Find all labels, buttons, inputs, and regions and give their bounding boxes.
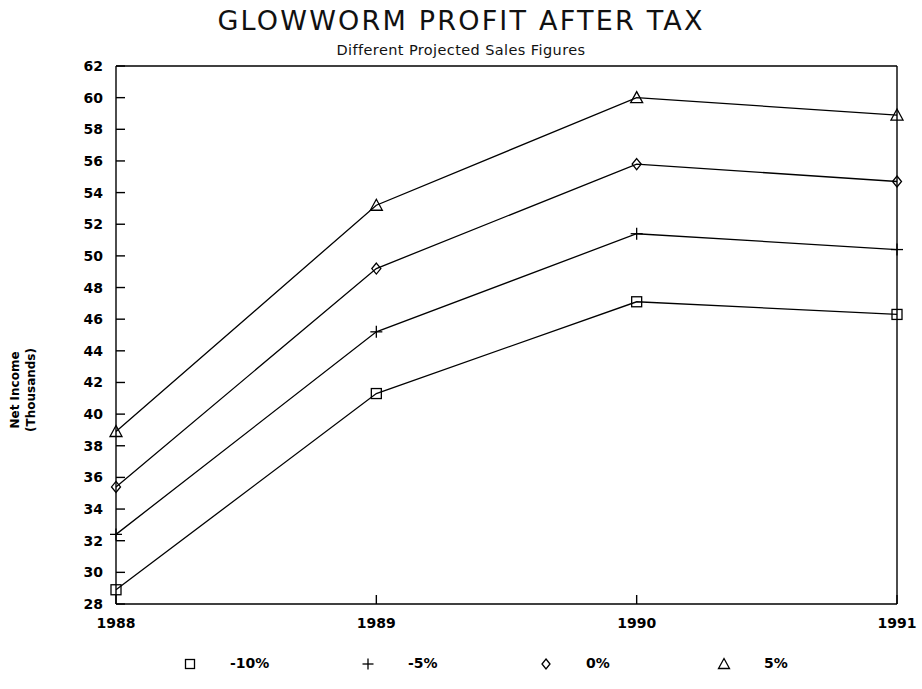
y-tick-label: 62	[84, 58, 103, 74]
y-tick-label: 48	[84, 280, 103, 296]
chart-title: GLOWWORM PROFIT AFTER TAX	[217, 5, 704, 36]
series-line	[116, 164, 897, 487]
y-tick-label: 34	[84, 501, 104, 517]
y-tick-label: 58	[84, 121, 103, 137]
marker-plus	[631, 228, 643, 240]
y-tick-label: 30	[84, 564, 104, 580]
y-axis-title: Net Income (Thousands)	[8, 348, 38, 432]
legend-item-minus5pct[interactable]: -5%	[363, 655, 438, 671]
chart-subtitle: Different Projected Sales Figures	[337, 42, 586, 58]
marker-plus	[370, 326, 382, 338]
x-tick-label: 1990	[617, 615, 656, 631]
series-line	[116, 302, 897, 590]
chart-canvas: GLOWWORM PROFIT AFTER TAX Different Proj…	[0, 0, 922, 689]
marker-square	[186, 660, 195, 669]
x-axis-ticks: 1988198919901991	[97, 595, 917, 631]
legend-label: -5%	[408, 655, 438, 671]
series-minus5pct	[110, 228, 903, 541]
series-5pct	[110, 92, 903, 437]
legend-label: 5%	[764, 655, 788, 671]
marker-plus	[110, 528, 122, 540]
series-0pct	[112, 159, 902, 493]
legend-label: 0%	[586, 655, 610, 671]
y-tick-label: 40	[84, 406, 104, 422]
y-tick-label: 56	[84, 153, 103, 169]
line-chart: GLOWWORM PROFIT AFTER TAX Different Proj…	[0, 0, 922, 689]
y-axis-title-line1: Net Income	[8, 351, 22, 428]
x-tick-label: 1991	[878, 615, 917, 631]
y-tick-label: 46	[84, 311, 103, 327]
y-tick-label: 44	[84, 343, 104, 359]
series-line	[116, 234, 897, 535]
chart-legend: -10%-5%0%5%	[186, 655, 788, 671]
legend-item-0pct[interactable]: 0%	[542, 655, 610, 671]
marker-triangle	[719, 659, 730, 669]
y-axis-ticks: 283032343638404244464850525456586062	[84, 58, 125, 612]
x-tick-label: 1989	[357, 615, 396, 631]
x-tick-label: 1988	[97, 615, 136, 631]
y-tick-label: 54	[84, 185, 104, 201]
legend-item-minus10pct[interactable]: -10%	[186, 655, 270, 671]
marker-plus	[891, 244, 903, 256]
y-tick-label: 60	[84, 90, 104, 106]
y-tick-label: 50	[84, 248, 104, 264]
y-tick-label: 52	[84, 216, 103, 232]
marker-plus	[363, 659, 374, 670]
y-tick-label: 42	[84, 374, 103, 390]
y-tick-label: 32	[84, 533, 103, 549]
y-axis-title-line2: (Thousands)	[24, 348, 38, 432]
plot-frame	[116, 66, 897, 604]
legend-item-5pct[interactable]: 5%	[719, 655, 788, 671]
series-line	[116, 98, 897, 432]
marker-diamond	[542, 659, 550, 669]
y-tick-label: 28	[84, 596, 103, 612]
legend-label: -10%	[230, 655, 269, 671]
series-layer	[110, 92, 903, 595]
y-tick-label: 38	[84, 438, 103, 454]
y-tick-label: 36	[84, 469, 103, 485]
